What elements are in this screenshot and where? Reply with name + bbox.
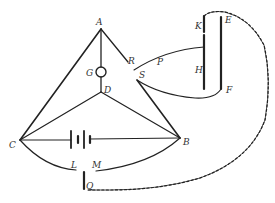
label-K: K (194, 21, 203, 31)
wire-S-F (137, 80, 221, 98)
wire-D-B (101, 92, 180, 138)
label-Q: Q (86, 181, 94, 191)
galvanometer-icon (96, 67, 106, 77)
wire-A-C (20, 29, 101, 140)
label-B: B (182, 137, 190, 147)
label-R: R (127, 56, 135, 66)
label-S: S (139, 70, 145, 80)
wire-R-P-H (134, 47, 204, 70)
label-E: E (224, 15, 232, 25)
wire-S-B (137, 80, 180, 138)
wire-battery-B (90, 138, 180, 139)
label-L: L (70, 160, 77, 170)
wire-M-B (96, 138, 180, 171)
wire-C-L (20, 140, 76, 170)
circuit-diagram: A G D R S P C B L M Q K E H F (0, 0, 275, 203)
label-H: H (194, 65, 203, 75)
label-P: P (156, 57, 164, 67)
label-G: G (86, 68, 93, 78)
label-M: M (91, 160, 102, 170)
wire-A-R (101, 29, 128, 62)
label-D: D (103, 85, 111, 95)
label-C: C (9, 140, 16, 150)
wire-D-C (20, 92, 101, 140)
label-F: F (225, 85, 233, 95)
label-A: A (95, 17, 103, 27)
